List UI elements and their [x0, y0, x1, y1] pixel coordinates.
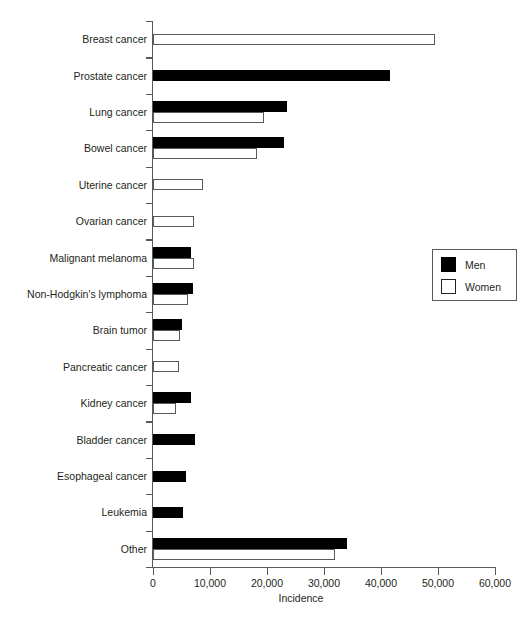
y-axis-tick [146, 57, 153, 58]
x-axis-tick-label: 10,000 [194, 577, 226, 589]
y-axis-tick [146, 531, 153, 532]
bar-men [153, 283, 193, 294]
x-axis-tick [153, 568, 154, 575]
bar-women [153, 148, 257, 159]
legend-label-men: Men [465, 259, 485, 271]
x-axis-tick [495, 568, 496, 575]
incidence-bar-chart: Breast cancerProstate cancerLung cancerB… [0, 0, 532, 619]
bar-women [153, 549, 335, 560]
bar-women [153, 216, 194, 227]
x-axis-tick [438, 568, 439, 575]
x-axis-tick-label: 40,000 [365, 577, 397, 589]
y-axis-tick [146, 567, 153, 568]
y-axis-tick [146, 130, 153, 131]
legend-entry-women: Women [441, 279, 501, 294]
bar-men [153, 137, 284, 148]
category-label: Kidney cancer [80, 397, 147, 409]
y-axis-tick [146, 203, 153, 204]
x-axis-tick [324, 568, 325, 575]
category-label: Uterine cancer [79, 179, 147, 191]
bar-men [153, 247, 191, 258]
category-label: Breast cancer [82, 33, 147, 45]
bar-men [153, 471, 186, 482]
legend-swatch-women-icon [441, 279, 456, 294]
x-axis-tick-label: 50,000 [422, 577, 454, 589]
category-label: Non-Hodgkin's lymphoma [27, 288, 147, 300]
y-axis-tick [146, 421, 153, 422]
y-axis-tick [146, 167, 153, 168]
category-label: Prostate cancer [73, 70, 147, 82]
category-label: Brain tumor [93, 324, 147, 336]
category-label: Bladder cancer [76, 434, 147, 446]
bar-women [153, 179, 203, 190]
x-axis-tick [381, 568, 382, 575]
y-axis-tick [146, 276, 153, 277]
category-label: Malignant melanoma [50, 252, 147, 264]
bar-men [153, 392, 191, 403]
category-label: Bowel cancer [84, 142, 147, 154]
y-axis-tick [146, 458, 153, 459]
bar-men [153, 538, 347, 549]
x-axis-tick-label: 20,000 [251, 577, 283, 589]
x-axis-tick [210, 568, 211, 575]
bar-men [153, 507, 183, 518]
y-axis-tick [146, 239, 153, 240]
category-label: Leukemia [101, 506, 147, 518]
y-axis-tick [146, 349, 153, 350]
legend-entry-men: Men [441, 257, 485, 272]
category-label: Esophageal cancer [57, 470, 147, 482]
bar-men [153, 434, 195, 445]
y-axis-tick [146, 494, 153, 495]
bar-women [153, 361, 179, 372]
x-axis-title-text: Incidence [279, 592, 324, 604]
y-axis-tick [146, 312, 153, 313]
x-axis-tick-label: 60,000 [479, 577, 511, 589]
x-axis-title: Incidence [0, 592, 532, 604]
bar-women [153, 330, 180, 341]
bar-men [153, 319, 182, 330]
y-axis-tick [146, 385, 153, 386]
x-axis-tick-label: 30,000 [308, 577, 340, 589]
bar-men [153, 70, 390, 81]
bar-men [153, 101, 287, 112]
category-label: Lung cancer [89, 106, 147, 118]
category-label: Other [121, 543, 147, 555]
bar-women [153, 294, 188, 305]
legend-label-women: Women [465, 281, 501, 293]
bar-women [153, 34, 435, 45]
category-label: Pancreatic cancer [63, 361, 147, 373]
y-axis-tick [146, 94, 153, 95]
legend-swatch-men-icon [441, 257, 456, 272]
x-axis-tick-label: 0 [150, 577, 156, 589]
y-axis-tick [146, 21, 153, 22]
chart-legend: Men Women [432, 249, 517, 301]
bar-women [153, 258, 194, 269]
bar-women [153, 403, 176, 414]
bar-women [153, 112, 264, 123]
x-axis-tick [267, 568, 268, 575]
category-label: Ovarian cancer [76, 215, 147, 227]
